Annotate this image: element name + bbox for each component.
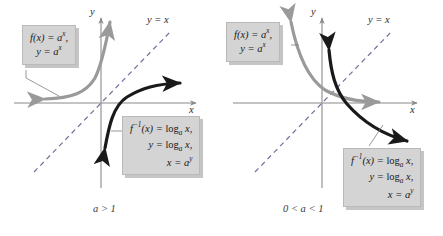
exponential-callout: f(x) = ax, y = ax [226, 22, 280, 62]
identity-line-label: y = x [147, 14, 169, 25]
panel-a-between-0-and-1: y x y = x f(x) = ax, y = ax f−1(x) = log… [221, 0, 442, 236]
logarithm-callout-line-2: y = loga x, [351, 170, 413, 187]
panel-caption: a > 1 [93, 203, 116, 214]
exponential-callout-line-2: y = ax [30, 44, 68, 58]
y-axis-label: y [90, 6, 95, 17]
logarithm-callout-line-1: f−1(x) = loga x, [130, 121, 192, 138]
panel-caption: 0 < a < 1 [283, 203, 323, 214]
exponential-callout-line-2: y = ax [234, 41, 272, 55]
x-axis-label: x [189, 104, 194, 115]
logarithm-callout-line-3: x = ay [351, 187, 413, 201]
panel-a-greater-than-1: y x y = x f(x) = ax, y = ax f−1(x) = log… [0, 0, 221, 236]
exponential-curve [291, 22, 379, 102]
inverse-function-figure: y x y = x f(x) = ax, y = ax f−1(x) = log… [0, 0, 443, 236]
logarithm-curve [329, 50, 407, 141]
logarithm-callout-line-3: x = ay [130, 155, 192, 169]
identity-line-label: y = x [368, 14, 390, 25]
logarithm-callout-line-2: y = loga x, [130, 138, 192, 155]
exponential-callout: f(x) = ax, y = ax [22, 25, 76, 65]
logarithm-callout-line-1: f−1(x) = loga x, [351, 153, 413, 170]
exponential-callout-leader [26, 70, 59, 96]
logarithm-callout: f−1(x) = loga x, y = loga x, x = ay [122, 116, 200, 175]
y-axis-label: y [311, 6, 316, 17]
logarithm-callout: f−1(x) = loga x, y = loga x, x = ay [343, 148, 421, 207]
exponential-callout-line-1: f(x) = ax, [234, 27, 272, 41]
x-axis-label: x [410, 104, 415, 115]
exponential-callout-line-1: f(x) = ax, [30, 30, 68, 44]
